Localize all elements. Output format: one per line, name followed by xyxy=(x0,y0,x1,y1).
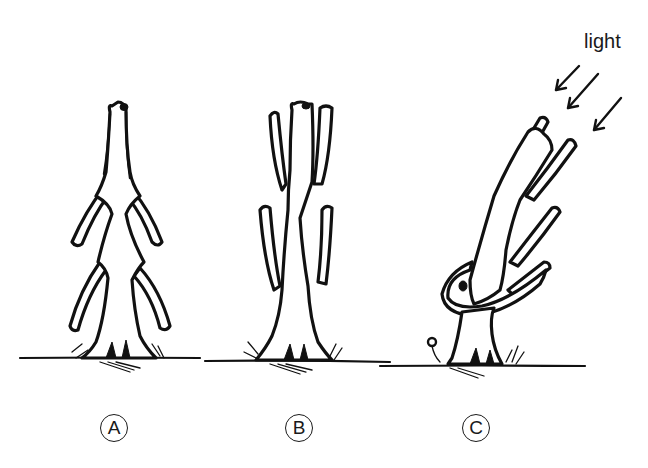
panel-label-b: B xyxy=(285,414,313,442)
arrow-icon xyxy=(568,74,598,108)
plant-c xyxy=(428,118,576,379)
arrow-icon xyxy=(594,98,621,130)
arrow-icon xyxy=(556,66,579,90)
plant-a xyxy=(70,102,170,372)
light-arrows xyxy=(556,66,621,130)
panel-label-c: C xyxy=(462,414,490,442)
plant-b xyxy=(244,102,342,374)
panel-label-c-text: C xyxy=(469,417,483,439)
illustration-canvas xyxy=(0,0,648,468)
light-label: light xyxy=(584,30,621,53)
panel-label-a-text: A xyxy=(108,417,121,439)
panel-label-b-text: B xyxy=(293,417,306,439)
panel-label-a: A xyxy=(100,414,128,442)
